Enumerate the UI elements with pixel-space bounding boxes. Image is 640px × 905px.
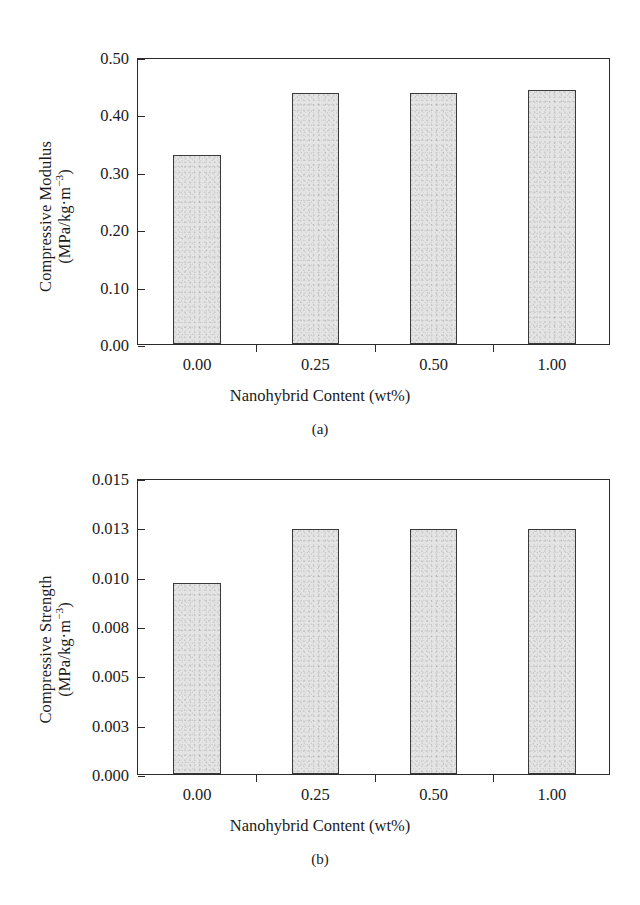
x-axis-tick-label: 0.00 xyxy=(183,785,212,805)
y-axis-tick-label: 0.000 xyxy=(92,766,129,786)
x-axis-tick-label: 1.00 xyxy=(537,785,566,805)
bar xyxy=(292,529,339,774)
x-axis-tick-mark xyxy=(256,344,257,352)
panel-b-subcaption: (b) xyxy=(0,851,640,868)
panel-b-x-axis-label: Nanohybrid Content (wt%) xyxy=(0,816,640,836)
y-axis-tick-label: 0.40 xyxy=(100,106,129,126)
y-axis-tick-mark xyxy=(138,579,145,580)
x-axis-tick-mark xyxy=(375,774,376,782)
y-axis-tick-label: 0.008 xyxy=(92,618,129,638)
bar xyxy=(528,529,575,774)
x-axis-tick-label: 1.00 xyxy=(537,355,566,375)
y-axis-tick-mark xyxy=(138,529,145,530)
bar xyxy=(410,529,457,774)
panel-a-plot-area: 0.000.100.200.300.400.500.000.250.501.00 xyxy=(137,58,610,345)
y-axis-tick-label: 0.010 xyxy=(92,569,129,589)
y-axis-tick-mark xyxy=(138,480,145,481)
y-axis-tick-label: 0.30 xyxy=(100,164,129,184)
y-axis-tick-label: 0.10 xyxy=(100,279,129,299)
panel-a-y-axis-label-line2: (MPa/kg·m−3) xyxy=(55,91,74,341)
y-axis-tick-mark xyxy=(138,776,145,777)
y-axis-tick-mark xyxy=(138,59,145,60)
panel-b: Compressive Strength (MPa/kg·m−3) 0.0000… xyxy=(0,450,640,905)
x-axis-tick-label: 0.25 xyxy=(301,785,330,805)
figure-container: Compressive Modulus (MPa/kg·m−3) 0.000.1… xyxy=(0,0,640,905)
y-axis-tick-mark xyxy=(138,628,145,629)
x-axis-tick-label: 0.50 xyxy=(419,785,448,805)
y-axis-tick-mark xyxy=(138,174,145,175)
bar xyxy=(173,583,220,774)
bar xyxy=(528,90,575,344)
y-axis-tick-mark xyxy=(138,677,145,678)
y-axis-tick-mark xyxy=(138,289,145,290)
panel-a-y-axis-label-line1: Compressive Modulus xyxy=(36,141,55,292)
y-axis-tick-label: 0.005 xyxy=(92,667,129,687)
y-axis-tick-mark xyxy=(138,346,145,347)
y-axis-tick-label: 0.003 xyxy=(92,717,129,737)
y-axis-tick-mark xyxy=(138,116,145,117)
x-axis-tick-mark xyxy=(375,344,376,352)
panel-a-x-axis-label: Nanohybrid Content (wt%) xyxy=(0,386,640,406)
y-axis-tick-label: 0.00 xyxy=(100,336,129,356)
y-axis-tick-label: 0.013 xyxy=(92,519,129,539)
panel-b-y-axis-label: Compressive Strength (MPa/kg·m−3) xyxy=(36,524,75,774)
panel-b-y-axis-label-line1: Compressive Strength xyxy=(36,575,55,723)
y-axis-tick-mark xyxy=(138,727,145,728)
panel-b-y-axis-label-line2: (MPa/kg·m−3) xyxy=(55,524,74,774)
x-axis-tick-label: 0.25 xyxy=(301,355,330,375)
y-axis-tick-mark xyxy=(138,231,145,232)
x-axis-tick-label: 0.50 xyxy=(419,355,448,375)
panel-a: Compressive Modulus (MPa/kg·m−3) 0.000.1… xyxy=(0,0,640,450)
bar xyxy=(292,93,339,344)
y-axis-tick-label: 0.015 xyxy=(92,470,129,490)
panel-a-subcaption: (a) xyxy=(0,421,640,438)
panel-a-y-axis-label: Compressive Modulus (MPa/kg·m−3) xyxy=(36,91,75,341)
x-axis-tick-mark xyxy=(493,344,494,352)
bar xyxy=(410,93,457,344)
y-axis-tick-label: 0.50 xyxy=(100,49,129,69)
bar xyxy=(173,155,220,344)
x-axis-tick-mark xyxy=(493,774,494,782)
y-axis-tick-label: 0.20 xyxy=(100,221,129,241)
panel-b-plot-area: 0.0000.0030.0050.0080.0100.0130.0150.000… xyxy=(137,479,610,775)
x-axis-tick-mark xyxy=(256,774,257,782)
x-axis-tick-label: 0.00 xyxy=(183,355,212,375)
